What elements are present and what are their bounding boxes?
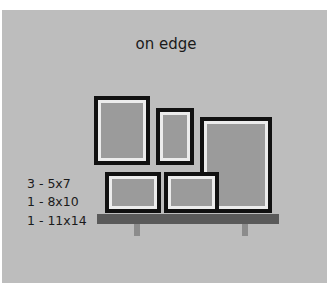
shelf-bracket-2 <box>242 224 248 236</box>
legend-item-11x14: 1 - 11x14 <box>27 214 87 228</box>
legend-item-5x7: 3 - 5x7 <box>27 177 71 191</box>
picture-area <box>112 179 154 206</box>
shelf <box>97 214 279 224</box>
picture-frame-5x7-landscape-left <box>105 172 161 213</box>
picture-area <box>171 179 212 206</box>
picture-frame-5x7-portrait <box>156 108 194 165</box>
diagram-title: on edge <box>0 35 332 53</box>
legend-item-8x10: 1 - 8x10 <box>27 195 79 209</box>
picture-area <box>101 103 143 158</box>
picture-frame-5x7-landscape-right <box>164 172 219 213</box>
picture-area <box>163 115 187 158</box>
picture-frame-8x10-portrait <box>94 96 150 165</box>
shelf-bracket-1 <box>134 224 140 236</box>
